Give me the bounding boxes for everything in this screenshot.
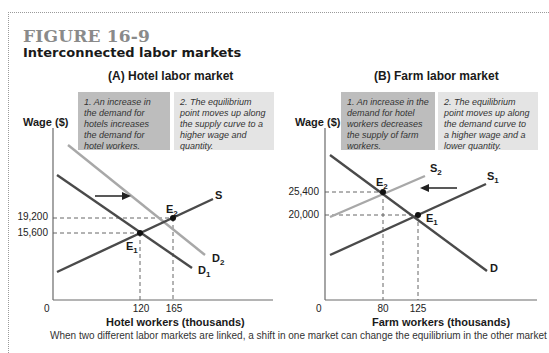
panel-b-equilibrium-e1 bbox=[415, 212, 421, 218]
panel-b-label-d: D bbox=[490, 262, 498, 274]
panel-b-demand-curve-d bbox=[330, 155, 487, 271]
figure-caption: When two different labor markets are lin… bbox=[50, 330, 547, 341]
panel-b-supply-curve-s1 bbox=[330, 184, 486, 255]
arrow-left-icon bbox=[420, 184, 429, 192]
panel-b-label-s1: S1 bbox=[487, 170, 499, 185]
panel-b-label-e2: E2 bbox=[376, 176, 388, 191]
panel-b-label-s2: S2 bbox=[430, 162, 442, 177]
panel-b-label-e1: E1 bbox=[426, 212, 438, 227]
